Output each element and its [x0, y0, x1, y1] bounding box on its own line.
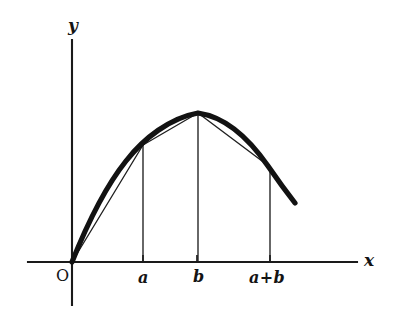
x-tick-label-a-plus-b: a+b — [249, 270, 285, 286]
x-tick-label-b: b — [193, 269, 204, 285]
chord-a-to-b — [143, 113, 198, 145]
origin-label: O — [56, 268, 69, 284]
concave-curve — [72, 113, 295, 262]
chord-origin-to-a — [72, 145, 143, 262]
chord-b-to-a-plus-b — [198, 113, 270, 167]
x-tick-label-a: a — [138, 270, 148, 286]
figure-canvas: y x O a b a+b — [0, 0, 393, 329]
x-axis-label: x — [364, 252, 374, 269]
y-axis-label: y — [68, 17, 78, 34]
